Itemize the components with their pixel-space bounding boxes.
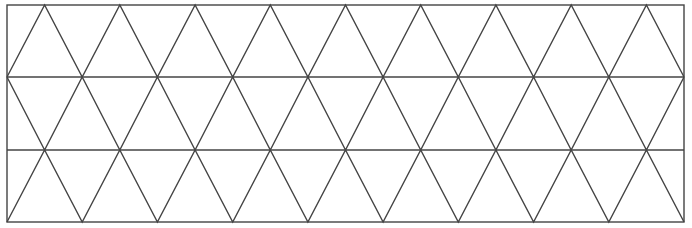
triangle-grid-diagram	[0, 0, 692, 228]
